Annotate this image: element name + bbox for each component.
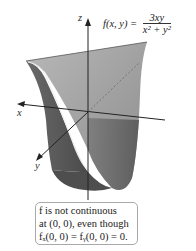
- formula-fraction: 3xy x² + y²: [143, 12, 171, 35]
- surface-front-right: [88, 118, 139, 190]
- annotation-box: f is not continuous at (0, 0), even thou…: [35, 202, 138, 245]
- z-axis-arrowhead: [85, 18, 91, 26]
- z-axis-label: z: [78, 12, 82, 23]
- formula-numerator: 3xy: [143, 12, 171, 24]
- annotation-line-1: f is not continuous: [39, 204, 134, 217]
- formula-lhs: f(x, y) =: [103, 18, 137, 29]
- x-axis-label: x: [17, 107, 22, 118]
- annotation-line-2: at (0, 0), even though: [39, 217, 134, 230]
- annotation-line-3: fₓ(0, 0) = fᵧ(0, 0) = 0.: [39, 230, 134, 243]
- function-formula: f(x, y) = 3xy x² + y²: [103, 12, 171, 35]
- y-axis-label: y: [35, 160, 40, 171]
- formula-denominator: x² + y²: [143, 24, 171, 35]
